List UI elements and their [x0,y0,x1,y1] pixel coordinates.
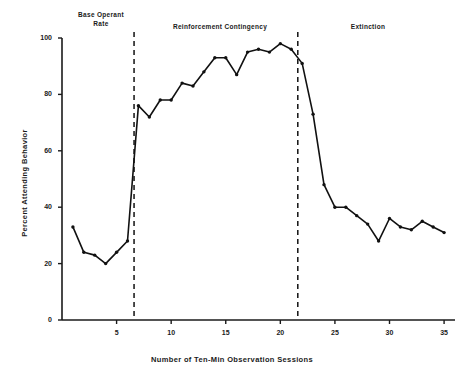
x-tick-label: 10 [161,329,181,336]
data-point [431,225,434,228]
data-point [355,214,358,217]
data-point [366,222,369,225]
data-point [279,42,282,45]
data-point [148,115,151,118]
data-point [202,70,205,73]
data-point [169,98,172,101]
x-tick-label: 35 [434,329,454,336]
data-point [224,56,227,59]
data-point [300,62,303,65]
data-point [399,225,402,228]
data-line [73,44,444,264]
data-point [191,84,194,87]
data-point [93,253,96,256]
data-point [246,50,249,53]
y-tick-label: 60 [26,147,52,154]
data-point [104,262,107,265]
data-point [311,112,314,115]
data-point [344,206,347,209]
y-tick-label: 80 [26,90,52,97]
plot-area [0,0,464,377]
data-point [333,206,336,209]
data-point [235,73,238,76]
data-point [322,183,325,186]
data-point [137,104,140,107]
x-tick-label: 25 [325,329,345,336]
data-point [71,225,74,228]
y-tick-label: 40 [26,203,52,210]
data-point [388,217,391,220]
data-point [290,48,293,51]
x-tick-label: 5 [107,329,127,336]
y-tick-label: 20 [26,260,52,267]
y-tick-label: 100 [26,34,52,41]
data-point [180,81,183,84]
x-tick-label: 20 [270,329,290,336]
data-point [257,48,260,51]
data-point [159,98,162,101]
data-point [410,228,413,231]
x-tick-label: 15 [216,329,236,336]
axis-ticks [58,38,444,324]
data-markers [71,42,446,265]
y-tick-label: 0 [26,316,52,323]
chart-figure: Base Operant Rate Reinforcement Continge… [0,0,464,377]
data-point [213,56,216,59]
data-point [115,251,118,254]
axes [62,38,455,320]
data-point [82,251,85,254]
data-point [268,50,271,53]
data-point [442,231,445,234]
phase-dividers [134,32,298,320]
x-tick-label: 30 [380,329,400,336]
data-point [126,239,129,242]
data-point [421,220,424,223]
data-point [377,239,380,242]
